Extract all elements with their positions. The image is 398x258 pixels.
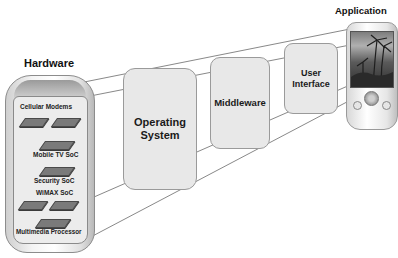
component-label-multimedia: Multimedia Processor [16, 228, 81, 235]
chip-wimax-2 [49, 201, 79, 210]
layer-middleware: Middleware [210, 57, 270, 149]
hardware-screen: Cellular Modems Mobile TV SoC Security S… [13, 96, 88, 244]
component-label-wimax: WiMAX SoC [36, 189, 73, 196]
chip-mobile-tv [39, 141, 75, 150]
layer-label-user-interface: User Interface [292, 68, 330, 89]
component-label-security: Security SoC [34, 177, 74, 184]
chip-multimedia [35, 219, 71, 228]
hardware-phone: Cellular Modems Mobile TV SoC Security S… [5, 75, 95, 253]
layer-operating-system: Operating System [123, 68, 197, 190]
application-phone [346, 22, 398, 130]
hardware-title: Hardware [24, 57, 74, 69]
layer-user-interface: User Interface [284, 43, 338, 114]
chip-cellular-modem-2 [51, 118, 81, 127]
soft-key-left-icon [353, 101, 362, 110]
layer-label-middleware: Middleware [214, 98, 266, 109]
application-title: Application [335, 5, 387, 16]
soft-key-right-icon [382, 101, 391, 110]
application-screen-image [350, 31, 394, 88]
chip-wimax-1 [18, 201, 48, 210]
component-label-cellular-modems: Cellular Modems [20, 103, 72, 110]
chip-security [39, 167, 75, 176]
layer-label-operating-system: Operating System [134, 116, 186, 141]
chip-cellular-modem-1 [19, 118, 49, 127]
palm-tree-icon [351, 32, 393, 87]
component-label-mobile-tv: Mobile TV SoC [33, 151, 79, 158]
dpad-icon [364, 91, 379, 106]
